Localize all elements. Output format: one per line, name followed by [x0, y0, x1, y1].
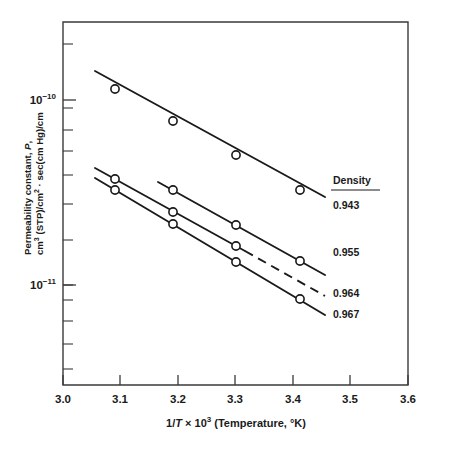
series-0.943-point-3	[232, 151, 240, 159]
series-0.967	[95, 178, 325, 315]
series-0.964-point-3	[232, 242, 240, 250]
series-0.943-point-4	[296, 186, 304, 194]
series-0.964	[95, 168, 325, 296]
legend-item-0.964: 0.964	[333, 287, 359, 299]
series-0.967-line	[95, 178, 325, 315]
x-tick-labels: 3.0 3.1 3.2 3.3 3.4 3.5 3.6	[55, 393, 416, 405]
series-0.943-point-2	[169, 117, 177, 125]
series-0.967-point-1	[111, 186, 119, 194]
series-0.955-point-1	[169, 186, 177, 194]
series-0.967-point-4	[296, 295, 304, 303]
series-0.964-point-2	[169, 208, 177, 216]
legend: Density 0.943 0.955 0.964 0.967	[331, 174, 380, 320]
x-tick-label-3.4: 3.4	[285, 393, 302, 405]
x-tick-label-3.2: 3.2	[170, 393, 186, 405]
x-tick-label-3.3: 3.3	[227, 393, 243, 405]
series-0.943-line	[95, 71, 325, 197]
y-tick-label-1e-10: 10−10	[30, 92, 57, 106]
series-0.967-point-3	[232, 258, 240, 266]
series-0.964-point-1	[111, 175, 119, 183]
x-tick-label-3.5: 3.5	[342, 393, 359, 405]
y-tick-label-1e-11: 10−11	[30, 277, 56, 291]
x-axis-ticks	[63, 375, 408, 385]
y-axis-ticks	[63, 44, 76, 369]
series-0.955-point-2	[232, 221, 240, 229]
x-tick-label-3.0: 3.0	[55, 393, 71, 405]
x-tick-label-3.6: 3.6	[400, 393, 416, 405]
legend-item-0.943: 0.943	[333, 199, 359, 211]
arrhenius-permeability-plot: 10−10 10−11 3.0 3.1 3.2 3.3 3.4 3.5 3.6	[0, 0, 452, 457]
series-0.955-point-3	[296, 257, 304, 265]
x-tick-label-3.1: 3.1	[112, 393, 129, 405]
y-axis-title-line1: Permeability constant, P,	[22, 141, 33, 255]
chart-figure: 10−10 10−11 3.0 3.1 3.2 3.3 3.4 3.5 3.6	[0, 0, 452, 457]
legend-header: Density	[333, 174, 371, 186]
series-0.943	[95, 71, 325, 197]
series-0.967-point-2	[169, 220, 177, 228]
y-axis-title-line2: cm3 (STP)/cm2 · sec(cm Hg)/cm	[33, 112, 45, 255]
series-0.943-point-1	[111, 85, 119, 93]
legend-item-0.955: 0.955	[333, 246, 359, 258]
x-axis-title: 1/T × 103 (Temperature, °K)	[166, 415, 306, 429]
y-axis-title: Permeability constant, P, cm3 (STP)/cm2 …	[22, 112, 45, 255]
legend-item-0.967: 0.967	[333, 308, 359, 320]
series-0.955	[158, 182, 325, 275]
